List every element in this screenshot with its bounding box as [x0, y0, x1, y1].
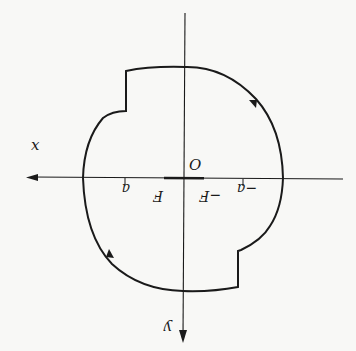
origin-label: O: [189, 156, 201, 174]
x-axis-label: x: [31, 136, 40, 154]
direction-arrow-lower-left-icon: [106, 249, 114, 258]
tick-label-F: F: [152, 188, 164, 204]
x-axis-arrow-icon: [26, 174, 38, 181]
tick-label-a: a: [122, 181, 130, 197]
direction-arrow-upper-right-icon: [249, 100, 257, 108]
tick-label-minus-F: −F: [198, 188, 221, 204]
tick-label-minus-a: −a: [237, 181, 257, 197]
y-axis-label: y: [163, 319, 173, 337]
contour-diagram: x O y a F −F −a: [0, 0, 356, 351]
y-axis: [183, 13, 185, 336]
y-axis-arrow-icon: [179, 330, 187, 343]
diagram-canvas: x O y a F −F −a: [0, 0, 356, 351]
